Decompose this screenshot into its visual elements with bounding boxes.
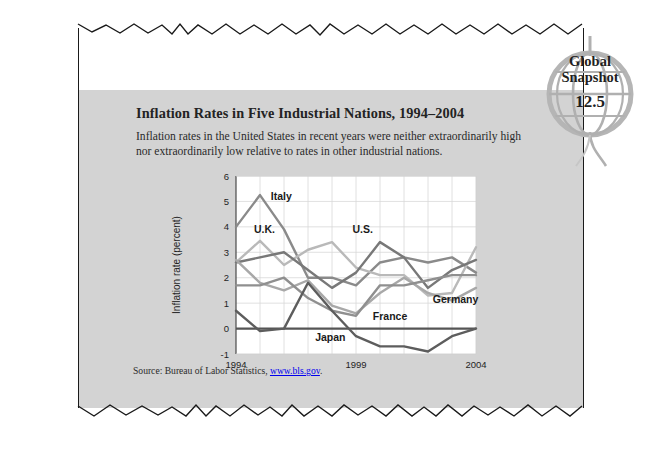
- page-title: Inflation Rates in Five Industrial Natio…: [136, 105, 464, 122]
- page-description: Inflation rates in the United States in …: [136, 129, 536, 160]
- y-axis-tick-label: 2: [224, 272, 229, 283]
- y-axis-tick-label: 5: [224, 196, 229, 207]
- x-axis-tick-label: 1994: [225, 359, 246, 370]
- series-label-japan: Japan: [315, 331, 345, 343]
- y-axis-tick-label: 6: [224, 171, 229, 182]
- logo-title-line1: Global: [530, 54, 650, 70]
- global-snapshot-logo: Global Snapshot 12.5: [530, 32, 650, 172]
- y-axis-title: Inflation rate (percent): [171, 216, 182, 314]
- logo-number: 12.5: [530, 92, 650, 112]
- series-label-uk: U.K.: [254, 223, 275, 235]
- series-label-france: France: [373, 310, 408, 322]
- y-axis-tick-label: 0: [224, 323, 229, 334]
- logo-title-line2: Snapshot: [530, 70, 650, 86]
- sheet-top-white-band: [78, 28, 584, 91]
- snapshot-page: Global Snapshot 12.5 Inflation Rates in …: [78, 28, 586, 418]
- x-axis-tick-label: 1999: [345, 359, 366, 370]
- inflation-line-chart: 6543210-1199419992004ItalyU.K.U.S.German…: [158, 168, 488, 393]
- x-axis-tick-label: 2004: [465, 359, 486, 370]
- logo-title: Global Snapshot: [530, 54, 650, 85]
- series-label-germany: Germany: [433, 293, 479, 305]
- y-axis-tick-label: 1: [224, 298, 229, 309]
- series-label-us: U.S.: [352, 223, 373, 235]
- y-axis-tick-label: 4: [224, 221, 229, 232]
- y-axis-tick-label: 3: [224, 247, 229, 258]
- series-label-italy: Italy: [271, 190, 292, 202]
- chart-canvas: 6543210-1199419992004ItalyU.K.U.S.German…: [158, 168, 488, 393]
